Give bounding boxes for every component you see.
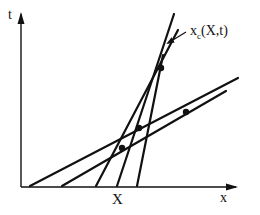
curve-label-base: x [190,23,197,38]
characteristic-line-3 [96,30,178,186]
curve-label: xc(X,t) [190,24,228,41]
x-axis-label: x [220,191,227,205]
intersection-dot-3 [158,65,164,71]
characteristic-line-5 [137,55,163,186]
intersection-dot-2 [136,125,142,131]
X-tick-label: X [112,192,123,207]
curve-label-args: (X,t) [201,23,228,38]
intersection-dot-1 [119,145,125,151]
characteristic-line-4 [117,14,174,186]
intersection-dot-4 [183,109,189,115]
t-axis-label: t [8,8,12,22]
